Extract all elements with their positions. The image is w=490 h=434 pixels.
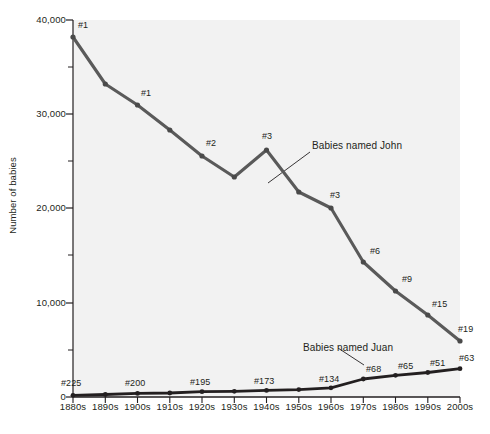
point-label-john-1920s: #2	[206, 138, 216, 148]
point-label-juan-1970s: #68	[366, 364, 381, 374]
point-label-juan-1900s: #200	[125, 378, 145, 388]
point-label-john-1970s: #6	[370, 246, 380, 256]
point-label-juan-1990s: #51	[430, 358, 445, 368]
series-line-john	[73, 37, 460, 341]
point-label-juan-1940s: #173	[254, 376, 274, 386]
point-label-juan-2000s: #63	[459, 353, 474, 363]
point-label-john-1900s: #1	[141, 88, 151, 98]
series-callout-john: Babies named John	[312, 140, 402, 151]
chart-canvas	[0, 0, 490, 434]
point-label-john-1880s: #1	[78, 20, 88, 30]
x-tick-label-2000s: 2000s	[440, 401, 480, 412]
point-label-john-1980s: #9	[402, 274, 412, 284]
y-axis-major-ticks	[66, 20, 73, 397]
point-label-john-1990s: #15	[432, 299, 447, 309]
point-label-juan-1880s: #225	[61, 378, 81, 388]
point-label-john-1940s: #3	[262, 131, 272, 141]
point-label-juan-1960s: #134	[319, 374, 339, 384]
chart-figure: Number of babies 40,000 30,000 20,000 10…	[0, 0, 490, 434]
point-label-john-2000s: #19	[458, 324, 473, 334]
point-label-juan-1980s: #65	[398, 361, 413, 371]
point-label-juan-1920s: #195	[190, 377, 210, 387]
series-callout-juan: Babies named Juan	[303, 342, 393, 353]
point-label-john-1960s: #3	[330, 190, 340, 200]
